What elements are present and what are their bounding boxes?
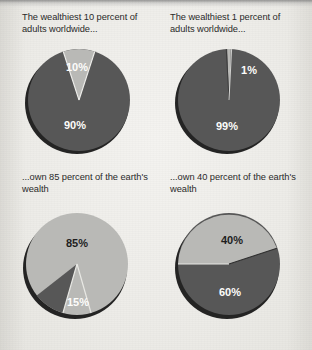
- pie-label-major: 60%: [219, 286, 241, 298]
- pie-label-minor: 1%: [241, 64, 257, 76]
- caption-bottom-left: ...own 85 percent of the earth's wealth: [22, 172, 157, 195]
- pie-chart-top-right: 1% 99%: [176, 48, 282, 154]
- pie-label-minor: 40%: [221, 234, 243, 246]
- pie-label-major: 99%: [216, 120, 238, 132]
- pie-label-minor: 10%: [66, 61, 88, 73]
- caption-top-left: The wealthiest 10 percent of adults worl…: [22, 12, 157, 35]
- pie-chart-top-left: 10% 90%: [26, 48, 132, 154]
- infographic: The wealthiest 10 percent of adults worl…: [0, 0, 312, 350]
- caption-bottom-right: ...own 40 percent of the earth's wealth: [170, 172, 305, 195]
- pie-chart-bottom-right: 40% 60%: [176, 212, 282, 318]
- pie-chart-bottom-left: 85% 15%: [24, 212, 130, 318]
- pie-label-major: 85%: [66, 237, 88, 249]
- caption-top-right: The wealthiest 1 percent of adults world…: [170, 12, 305, 35]
- pie-label-minor: 15%: [67, 296, 89, 308]
- pie-label-major: 90%: [64, 119, 86, 131]
